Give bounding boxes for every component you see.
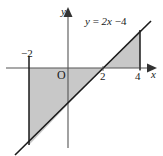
line-equation-label: y = 2x −4 xyxy=(85,16,126,27)
equation-relation: = xyxy=(90,15,102,27)
x-tick-label-2: 2 xyxy=(100,71,106,82)
graph-figure: y x O −2 2 4 y = 2x −4 xyxy=(0,0,163,156)
y-axis-label: y xyxy=(61,6,66,17)
equation-slope-term: 2x xyxy=(102,15,112,27)
equation-constant-term: −4 xyxy=(112,15,126,27)
x-tick-label-4: 4 xyxy=(135,71,141,82)
x-tick-label-neg2: −2 xyxy=(21,48,33,59)
x-axis-label: x xyxy=(151,69,156,80)
origin-label: O xyxy=(57,69,66,81)
